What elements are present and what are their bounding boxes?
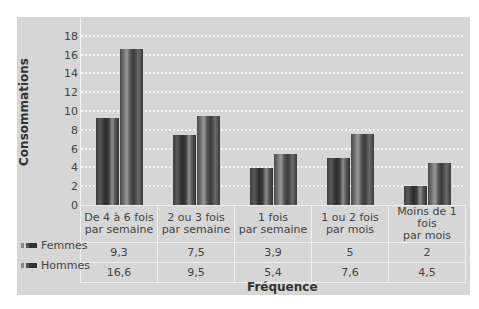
y-tick-label: 8 xyxy=(71,123,78,136)
legend-femmes: Femmes xyxy=(21,239,87,252)
y-tick-label: 6 xyxy=(71,142,78,155)
table-cell: 2 xyxy=(389,243,466,263)
bar-femmes xyxy=(96,118,119,205)
table-cell: 3,9 xyxy=(235,243,312,263)
legend-swatch-icon xyxy=(21,263,37,268)
y-tick-label: 2 xyxy=(71,180,78,193)
legend-swatch-icon xyxy=(21,243,37,248)
y-tick-label: 12 xyxy=(64,86,78,99)
bar-femmes xyxy=(173,135,196,206)
category-header: 1 ou 2 foispar mois xyxy=(312,206,389,243)
legend-label: Hommes xyxy=(41,259,90,272)
bar-hommes xyxy=(428,163,451,205)
category-header-row: De 4 à 6 foispar semaine 2 ou 3 foispar … xyxy=(81,206,466,243)
bar-femmes xyxy=(327,158,350,205)
bar-hommes xyxy=(351,134,374,205)
y-tick-label: 0 xyxy=(71,199,78,212)
category-header: Moins de 1 foispar mois xyxy=(389,206,466,243)
legend-hommes: Hommes xyxy=(21,259,90,272)
femmes-row: 9,3 7,5 3,9 5 2 xyxy=(81,243,466,263)
table-cell: 9,3 xyxy=(81,243,158,263)
data-table: De 4 à 6 foispar semaine 2 ou 3 foispar … xyxy=(80,205,466,283)
y-tick-label: 16 xyxy=(64,48,78,61)
x-axis-label: Fréquence xyxy=(247,280,318,294)
y-tick-label: 18 xyxy=(64,29,78,42)
y-tick-label: 10 xyxy=(64,105,78,118)
y-tick-label: 14 xyxy=(64,67,78,80)
category-header: 1 foispar semaine xyxy=(235,206,312,243)
table-cell: 9,5 xyxy=(158,263,235,283)
y-axis-label: Consommations xyxy=(17,58,31,166)
table-cell: 5 xyxy=(312,243,389,263)
bar-femmes xyxy=(404,186,427,205)
category-header: De 4 à 6 foispar semaine xyxy=(81,206,158,243)
bar-hommes xyxy=(120,49,143,205)
legend-label: Femmes xyxy=(41,239,87,252)
table-cell: 7,6 xyxy=(312,263,389,283)
bar-hommes xyxy=(274,154,297,205)
bar-femmes xyxy=(250,168,273,205)
y-tick-label: 4 xyxy=(71,161,78,174)
bar-hommes xyxy=(197,116,220,205)
table-cell: 4,5 xyxy=(389,263,466,283)
category-header: 2 ou 3 foispar semaine xyxy=(158,206,235,243)
table-cell: 16,6 xyxy=(81,263,158,283)
table-cell: 7,5 xyxy=(158,243,235,263)
